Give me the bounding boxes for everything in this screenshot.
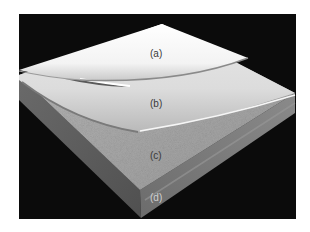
layered-slab-diagram: (a) (b) (c) (d): [0, 0, 310, 232]
label-d: (d): [150, 192, 162, 203]
label-c: (c): [150, 150, 162, 161]
label-a: (a): [150, 48, 162, 59]
label-b: (b): [150, 98, 162, 109]
